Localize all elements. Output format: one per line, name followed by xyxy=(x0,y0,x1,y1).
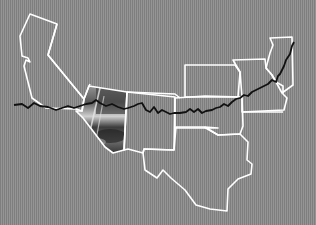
route-66-line xyxy=(14,42,294,114)
state-texas xyxy=(143,127,252,211)
state-new-mexico xyxy=(124,92,175,153)
state-california xyxy=(20,14,84,111)
state-nevada xyxy=(48,24,90,99)
map-canvas xyxy=(0,0,316,225)
state-outlines xyxy=(20,14,293,211)
route-map xyxy=(0,0,316,225)
state-kansas xyxy=(185,65,240,97)
state-missouri xyxy=(233,59,287,112)
